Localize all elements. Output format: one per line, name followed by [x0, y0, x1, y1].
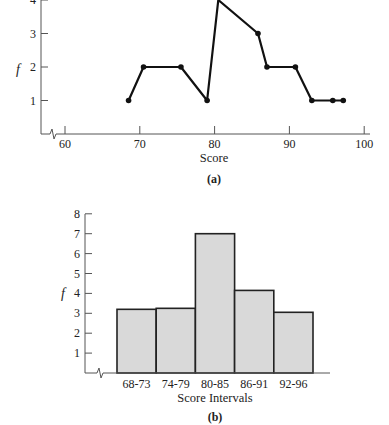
- y-tick-label: 1: [74, 346, 80, 360]
- x-axis-title-b: Score Intervals: [177, 391, 252, 405]
- y-tick-label: 5: [74, 267, 80, 281]
- data-point: [264, 64, 270, 70]
- y-ticks-a: 1234: [30, 0, 48, 108]
- y-tick-label: 8: [74, 207, 80, 221]
- x-tick-labels-b: 68-7374-7980-8586-9192-96: [123, 377, 308, 391]
- x-tick-label: 92-96: [279, 377, 307, 391]
- histogram-bar: [156, 308, 195, 373]
- x-tick-label: 74-79: [162, 377, 190, 391]
- y-tick-label: 2: [74, 326, 80, 340]
- data-point: [178, 64, 184, 70]
- y-tick-label: 4: [74, 286, 80, 300]
- x-axis-title-a: Score: [200, 151, 229, 165]
- y-tick-label: 3: [30, 27, 36, 41]
- data-point: [126, 98, 132, 104]
- data-point: [340, 98, 346, 104]
- figure: 1234 60708090100 f Score (a) 12345678 68…: [0, 0, 389, 425]
- data-point: [141, 64, 147, 70]
- x-tick-label: 100: [355, 137, 373, 151]
- x-ticks-a: 60708090100: [59, 126, 373, 151]
- panel-label-b: (b): [208, 410, 223, 424]
- data-point: [204, 98, 210, 104]
- y-axis-title-b: f: [61, 286, 67, 301]
- data-point: [293, 64, 299, 70]
- y-tick-label: 3: [74, 306, 80, 320]
- histogram-bars: [117, 234, 313, 373]
- y-ticks-b: 12345678: [74, 207, 92, 360]
- x-tick-label: 80-85: [201, 377, 229, 391]
- y-tick-label: 1: [30, 94, 36, 108]
- y-tick-label: 4: [30, 0, 36, 7]
- x-tick-label: 80: [209, 137, 221, 151]
- frequency-polygon: [129, 0, 344, 101]
- x-tick-label: 86-91: [240, 377, 268, 391]
- y-tick-label: 2: [30, 60, 36, 74]
- histogram-bar: [235, 290, 274, 373]
- data-point: [330, 98, 336, 104]
- chart-a: 1234 60708090100 f Score (a): [16, 0, 373, 186]
- data-point: [309, 98, 315, 104]
- x-axis-a: [41, 129, 370, 139]
- x-tick-label: 68-73: [123, 377, 151, 391]
- y-tick-label: 7: [74, 227, 80, 241]
- histogram-bar: [274, 312, 313, 373]
- x-tick-label: 70: [134, 137, 146, 151]
- data-point: [255, 31, 261, 37]
- histogram-bar: [195, 234, 234, 373]
- y-axis-title-a: f: [16, 62, 22, 77]
- y-tick-label: 6: [74, 247, 80, 261]
- histogram-bar: [117, 309, 156, 373]
- panel-label-a: (a): [207, 172, 221, 186]
- x-tick-label: 90: [283, 137, 295, 151]
- chart-b: 12345678 68-7374-7980-8586-9192-96 f Sco…: [61, 207, 330, 424]
- x-tick-label: 60: [59, 137, 71, 151]
